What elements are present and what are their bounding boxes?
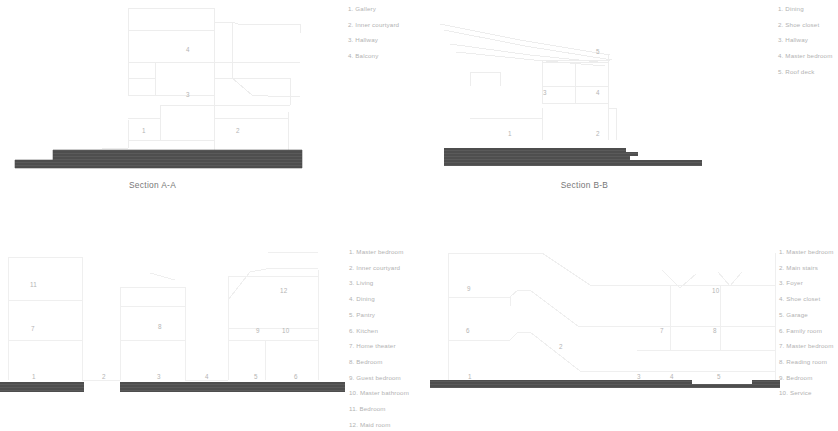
room-number-9: 9	[256, 327, 260, 334]
room-number-10: 10	[712, 287, 719, 294]
legend-item: 4. Master bedroom	[778, 53, 832, 59]
legend-item: 5. Roof deck	[778, 69, 832, 75]
room-number-5: 5	[596, 48, 600, 55]
section-b-b-drawing: Section B-B	[430, 0, 775, 205]
room-number-5: 5	[254, 373, 258, 380]
room-number-7: 7	[660, 327, 664, 334]
section-a-a-linework	[0, 0, 345, 205]
legend-section-d: 1. Master bedroom2. Main stairs3. Foyer4…	[779, 249, 833, 406]
room-number-3: 3	[637, 373, 641, 380]
legend-item: 3. Foyer	[779, 280, 833, 286]
legend-item: 7. Master bedroom	[779, 343, 833, 349]
room-number-1: 1	[142, 127, 146, 134]
legend-item: 11. Bedroom	[349, 406, 409, 412]
room-number-5: 5	[717, 373, 721, 380]
room-number-1: 1	[468, 373, 472, 380]
legend-item: 6. Family room	[779, 328, 833, 334]
section-d-linework	[430, 240, 780, 409]
room-number-2: 2	[559, 343, 563, 350]
room-number-1: 1	[32, 373, 36, 380]
room-number-6: 6	[294, 373, 298, 380]
legend-item: 9. Guest bedroom	[349, 375, 409, 381]
section-b-b-linework	[430, 0, 775, 205]
section-c-linework	[0, 240, 345, 409]
room-number-2: 2	[236, 127, 240, 134]
room-number-1: 1	[508, 130, 512, 137]
room-number-6: 6	[466, 327, 470, 334]
room-number-7: 7	[31, 325, 35, 332]
room-number-12: 12	[280, 287, 287, 294]
legend-item: 6. Kitchen	[349, 328, 409, 334]
legend-item: 1. Gallery	[348, 6, 399, 12]
legend-section-b-b: 1. Dining2. Shoe closet3. Hallway4. Mast…	[778, 6, 832, 85]
legend-item: 4. Balcony	[348, 53, 399, 59]
room-number-8: 8	[713, 327, 717, 334]
legend-item: 1. Master bedroom	[349, 249, 409, 255]
legend-item: 8. Bedroom	[349, 359, 409, 365]
room-number-4: 4	[205, 373, 209, 380]
legend-item: 9. Bedroom	[779, 375, 833, 381]
legend-item: 2. Inner courtyard	[348, 22, 399, 28]
legend-item: 3. Living	[349, 280, 409, 286]
room-number-3: 3	[157, 373, 161, 380]
legend-section-c: 1. Master bedroom2. Inner courtyard3. Li…	[349, 249, 409, 431]
room-number-3: 3	[543, 89, 547, 96]
legend-item: 12. Maid room	[349, 422, 409, 428]
room-number-4: 4	[670, 373, 674, 380]
room-number-4: 4	[596, 89, 600, 96]
legend-item: 2. Shoe closet	[778, 22, 832, 28]
room-number-2: 2	[102, 373, 106, 380]
legend-item: 5. Garage	[779, 312, 833, 318]
legend-item: 5. Pantry	[349, 312, 409, 318]
room-number-4: 4	[186, 46, 190, 53]
legend-item: 10. Service	[779, 390, 833, 396]
legend-item: 1. Master bedroom	[779, 249, 833, 255]
legend-item: 10. Master bathroom	[349, 390, 409, 396]
legend-item: 4. Shoe closet	[779, 296, 833, 302]
legend-item: 1. Dining	[778, 6, 832, 12]
legend-item: 2. Inner courtyard	[349, 265, 409, 271]
legend-item: 3. Hallway	[348, 37, 399, 43]
room-number-8: 8	[158, 323, 162, 330]
legend-section-a-a: 1. Gallery2. Inner courtyard3. Hallway4.…	[348, 6, 399, 69]
section-a-a-drawing: Section A-A	[0, 0, 345, 205]
room-number-10: 10	[282, 327, 289, 334]
room-number-11: 11	[30, 281, 37, 288]
legend-item: 2. Main stairs	[779, 265, 833, 271]
room-number-9: 9	[467, 285, 471, 292]
room-number-2: 2	[596, 130, 600, 137]
section-c-drawing	[0, 240, 345, 409]
legend-item: 7. Home theater	[349, 343, 409, 349]
section-d-drawing	[430, 240, 780, 409]
section-a-a-caption: Section A-A	[0, 180, 325, 190]
legend-item: 4. Dining	[349, 296, 409, 302]
section-b-b-caption: Section B-B	[412, 180, 757, 190]
legend-item: 3. Hallway	[778, 37, 832, 43]
legend-item: 8. Reading room	[779, 359, 833, 365]
room-number-3: 3	[186, 91, 190, 98]
